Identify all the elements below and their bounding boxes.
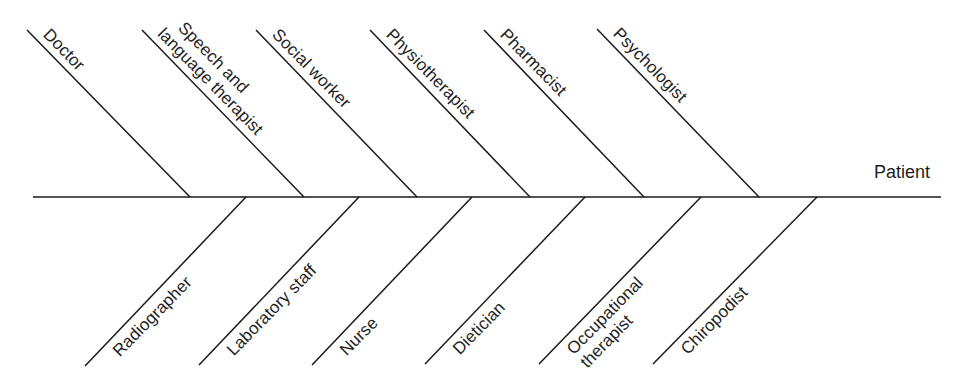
head-label-patient: Patient [874,161,930,183]
fishbone-diagram: DoctorSpeech andlanguage therapistSocial… [0,0,973,387]
upper-bone-line-pharmacist [484,30,644,197]
upper-bone-line-psychologist [597,29,759,197]
upper-bone-line-physiotherapist [370,30,530,197]
